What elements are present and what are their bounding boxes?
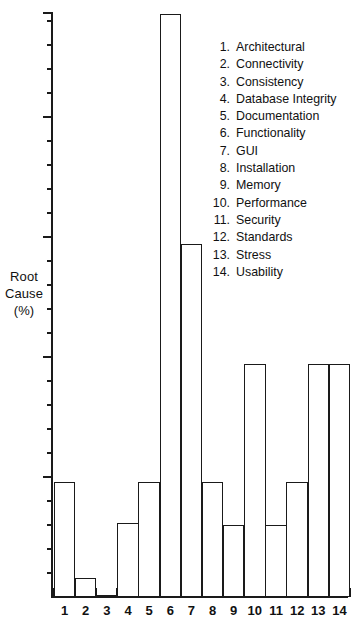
legend-item-index: 14. xyxy=(209,264,230,281)
x-tick-label-5: 5 xyxy=(146,603,153,619)
bar-9 xyxy=(223,525,245,597)
legend-item-4: 4.Database Integrity xyxy=(209,91,353,108)
legend-item-label: Documentation xyxy=(230,108,319,125)
legend-item-label: Database Integrity xyxy=(230,91,337,108)
legend-item-index: 5. xyxy=(209,108,230,125)
legend-item-8: 8.Installation xyxy=(209,160,353,177)
legend-item-10: 10.Performance xyxy=(209,195,353,212)
x-tick-label-12: 12 xyxy=(290,603,304,619)
legend-item-14: 14.Usability xyxy=(209,264,353,281)
legend-item-index: 4. xyxy=(209,91,230,108)
legend-item-9: 9.Memory xyxy=(209,177,353,194)
bar-6 xyxy=(160,14,182,597)
bar-7 xyxy=(181,244,203,597)
legend-item-label: Connectivity xyxy=(230,56,304,73)
legend-item-index: 11. xyxy=(209,212,230,229)
bar-10 xyxy=(244,364,266,597)
bar-13 xyxy=(308,364,330,597)
bar-12 xyxy=(286,482,308,597)
x-tick-label-7: 7 xyxy=(188,603,195,619)
legend-item-11: 11.Security xyxy=(209,212,353,229)
x-tick-label-9: 9 xyxy=(230,603,237,619)
x-tick-label-13: 13 xyxy=(311,603,325,619)
legend-item-12: 12.Standards xyxy=(209,229,353,246)
legend-item-7: 7.GUI xyxy=(209,143,353,160)
bar-11 xyxy=(265,525,287,597)
x-tick-label-10: 10 xyxy=(248,603,262,619)
legend-item-index: 8. xyxy=(209,160,230,177)
legend-item-label: Security xyxy=(230,212,281,229)
x-tick-label-4: 4 xyxy=(124,603,131,619)
legend-item-label: Installation xyxy=(230,160,295,177)
legend-item-label: Functionality xyxy=(230,125,306,142)
legend-item-label: Standards xyxy=(230,229,292,246)
x-tick-label-14: 14 xyxy=(332,603,346,619)
bar-5 xyxy=(138,482,160,597)
legend-item-label: Memory xyxy=(230,177,281,194)
legend-item-label: Usability xyxy=(230,264,283,281)
legend-item-label: Stress xyxy=(230,247,271,264)
legend-item-index: 9. xyxy=(209,177,230,194)
legend-item-2: 2.Connectivity xyxy=(209,56,353,73)
x-tick-label-2: 2 xyxy=(82,603,89,619)
x-tick-label-8: 8 xyxy=(209,603,216,619)
legend-item-index: 10. xyxy=(209,195,230,212)
legend-item-label: GUI xyxy=(230,143,258,160)
bar-14 xyxy=(329,364,351,597)
bar-2 xyxy=(75,578,97,597)
bar-3 xyxy=(96,595,118,598)
bar-4 xyxy=(117,523,139,597)
legend-item-3: 3.Consistency xyxy=(209,74,353,91)
legend-item-index: 6. xyxy=(209,125,230,142)
legend-item-1: 1.Architectural xyxy=(209,39,353,56)
legend-item-index: 12. xyxy=(209,229,230,246)
x-tick-label-6: 6 xyxy=(167,603,174,619)
category-legend: 1.Architectural2.Connectivity3.Consisten… xyxy=(209,39,353,281)
legend-item-index: 1. xyxy=(209,39,230,56)
legend-item-5: 5.Documentation xyxy=(209,108,353,125)
legend-item-13: 13.Stress xyxy=(209,247,353,264)
x-tick-label-3: 3 xyxy=(103,603,110,619)
x-tick-label-11: 11 xyxy=(269,603,283,619)
legend-item-6: 6.Functionality xyxy=(209,125,353,142)
legend-item-label: Consistency xyxy=(230,74,304,91)
legend-item-label: Performance xyxy=(230,195,307,212)
x-axis-tick-labels: 1234567891011121314 xyxy=(0,603,353,625)
legend-item-index: 13. xyxy=(209,247,230,264)
bar-1 xyxy=(54,482,76,597)
legend-item-index: 3. xyxy=(209,74,230,91)
legend-item-index: 2. xyxy=(209,56,230,73)
bar-8 xyxy=(202,482,224,597)
x-tick-label-1: 1 xyxy=(61,603,68,619)
legend-item-index: 7. xyxy=(209,143,230,160)
root-cause-bar-chart: Root Cause (%) 1234567891011121314 1.Arc… xyxy=(0,0,353,635)
legend-item-label: Architectural xyxy=(230,39,305,56)
